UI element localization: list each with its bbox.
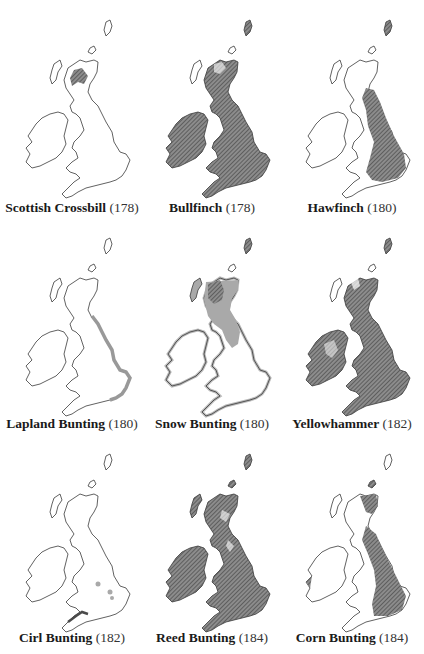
- map-yellowhammer: Yellowhammer (182): [282, 220, 422, 438]
- map-caption: Scottish Crossbill (178): [2, 200, 142, 216]
- britain-outline-map: [282, 220, 422, 420]
- map-caption: Bullfinch (178): [142, 200, 282, 216]
- species-map-grid: Scottish Crossbill (178) Bullfinch (178): [0, 0, 424, 654]
- map-hawfinch: Hawfinch (180): [282, 2, 422, 220]
- map-caption: Reed Bunting (184): [142, 630, 282, 646]
- map-lapland-bunting: Lapland Bunting (180): [2, 220, 142, 438]
- britain-outline-map: [2, 2, 142, 202]
- species-name: Yellowhammer: [292, 416, 379, 431]
- distribution-patch: [362, 88, 406, 182]
- map-caption: Hawfinch (180): [282, 200, 422, 216]
- map-bullfinch: Bullfinch (178): [142, 2, 282, 220]
- map-scottish-crossbill: Scottish Crossbill (178): [2, 2, 142, 220]
- britain-outline-map: [142, 220, 282, 420]
- species-name: Scottish Crossbill: [5, 200, 106, 215]
- distribution-dot: [108, 590, 113, 595]
- britain-outline-map: [142, 2, 282, 202]
- species-name: Reed Bunting: [156, 630, 235, 645]
- species-name: Hawfinch: [308, 200, 364, 215]
- page-reference: (182): [383, 416, 412, 431]
- distribution-patch: [362, 526, 406, 616]
- page-reference: (178): [109, 200, 138, 215]
- page-reference: (184): [379, 630, 408, 645]
- page-reference: (182): [96, 630, 125, 645]
- britain-outline-map: [2, 220, 142, 420]
- page-reference: (184): [239, 630, 268, 645]
- map-caption: Snow Bunting (180): [142, 416, 282, 432]
- map-reed-bunting: Reed Bunting (184): [142, 436, 282, 654]
- page-reference: (178): [226, 200, 255, 215]
- britain-outline-map: [2, 436, 142, 636]
- britain-outline-map: [282, 2, 422, 202]
- distribution-dot: [96, 582, 101, 587]
- britain-outline-map: [142, 436, 282, 636]
- map-snow-bunting: Snow Bunting (180): [142, 220, 282, 438]
- map-caption: Corn Bunting (184): [282, 630, 422, 646]
- page-reference: (180): [108, 416, 137, 431]
- distribution-patch: [70, 68, 88, 86]
- species-name: Lapland Bunting: [6, 416, 105, 431]
- page-reference: (180): [367, 200, 396, 215]
- coastal-distribution: [92, 316, 130, 400]
- page-reference: (180): [240, 416, 269, 431]
- map-caption: Lapland Bunting (180): [2, 416, 142, 432]
- distribution-patch: [360, 494, 378, 514]
- coastal-distribution: [68, 612, 88, 622]
- species-name: Cirl Bunting: [19, 630, 92, 645]
- species-name: Bullfinch: [169, 200, 222, 215]
- species-name: Corn Bunting: [296, 630, 376, 645]
- map-cirl-bunting: Cirl Bunting (182): [2, 436, 142, 654]
- map-corn-bunting: Corn Bunting (184): [282, 436, 422, 654]
- map-caption: Cirl Bunting (182): [2, 630, 142, 646]
- species-name: Snow Bunting: [155, 416, 236, 431]
- britain-outline-map: [282, 436, 422, 636]
- distribution-dot: [110, 596, 114, 600]
- map-caption: Yellowhammer (182): [282, 416, 422, 432]
